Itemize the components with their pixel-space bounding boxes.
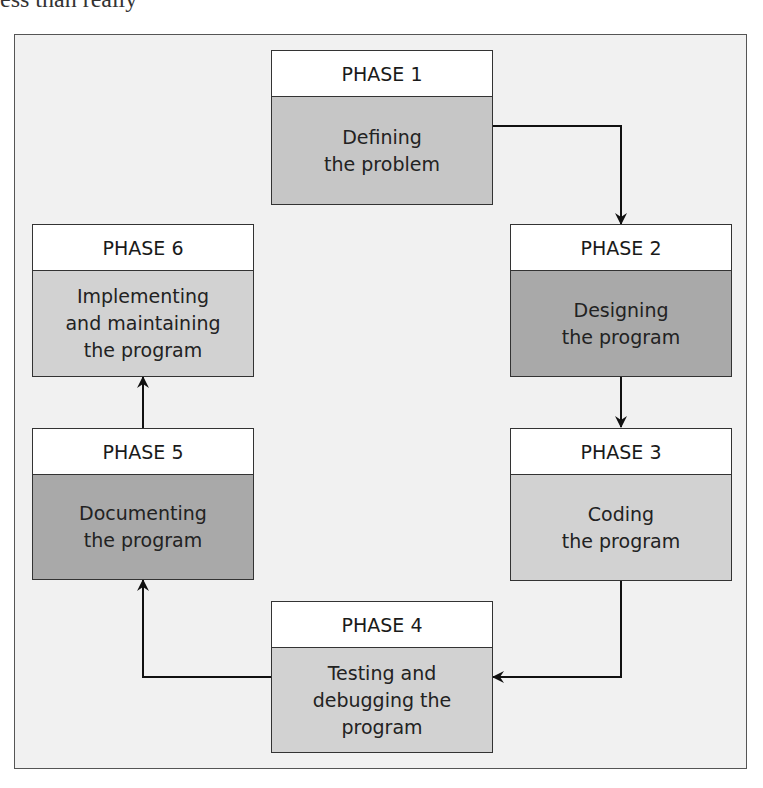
arrow-phase3-to-phase4 bbox=[493, 580, 621, 677]
phase-6-label: PHASE 6 bbox=[33, 225, 253, 271]
phase-1-box: PHASE 1 Defining the problem bbox=[271, 50, 493, 205]
phase-3-description: Coding the program bbox=[511, 475, 731, 580]
phase-1-description: Defining the problem bbox=[272, 97, 492, 204]
arrow-phase4-to-phase5 bbox=[143, 580, 271, 677]
phase-4-description: Testing and debugging the program bbox=[272, 648, 492, 752]
phase-2-label: PHASE 2 bbox=[511, 225, 731, 271]
phase-3-label: PHASE 3 bbox=[511, 429, 731, 475]
phase-6-description: Implementing and maintaining the program bbox=[33, 271, 253, 376]
phase-6-box: PHASE 6 Implementing and maintaining the… bbox=[32, 224, 254, 377]
phase-5-label: PHASE 5 bbox=[33, 429, 253, 475]
arrow-phase1-to-phase2 bbox=[492, 126, 621, 224]
phase-5-box: PHASE 5 Documenting the program bbox=[32, 428, 254, 580]
phase-4-label: PHASE 4 bbox=[272, 602, 492, 648]
phase-1-label: PHASE 1 bbox=[272, 51, 492, 97]
phase-2-description: Designing the program bbox=[511, 271, 731, 376]
phase-4-box: PHASE 4 Testing and debugging the progra… bbox=[271, 601, 493, 753]
phase-2-box: PHASE 2 Designing the program bbox=[510, 224, 732, 377]
phase-5-description: Documenting the program bbox=[33, 475, 253, 579]
phase-3-box: PHASE 3 Coding the program bbox=[510, 428, 732, 581]
